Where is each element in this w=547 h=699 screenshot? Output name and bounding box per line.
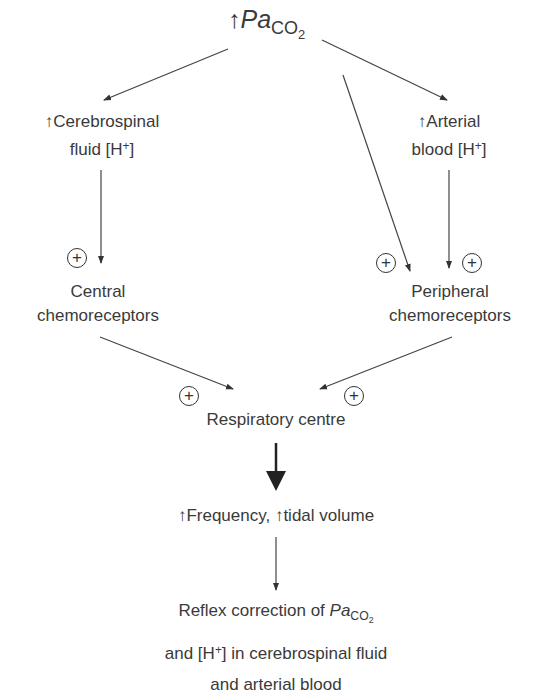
co2-subscript: CO2 — [350, 609, 373, 623]
csf-line2-prefix: fluid [H — [70, 140, 123, 159]
reflex-line1: Reflex correction of PaCO2 — [126, 596, 426, 635]
co-text: CO — [350, 609, 368, 623]
arterial-line2: blood [H+] — [393, 134, 505, 162]
central-line2: chemoreceptors — [23, 304, 173, 328]
co-text: CO — [271, 18, 298, 38]
peripheral-line1: Peripheral — [375, 280, 525, 304]
pa-label: Pa — [241, 5, 272, 33]
reflex-line2-suffix: ] in cerebrospinal fluid — [222, 645, 387, 664]
plus-superscript: + — [475, 139, 482, 153]
stimulatory-plus-icon: + — [67, 248, 87, 268]
reflex-line2-prefix: and [H — [165, 645, 215, 664]
plus-superscript: + — [123, 139, 130, 153]
stimulatory-plus-icon: + — [344, 386, 364, 406]
arrow-central-to-respiratory — [100, 337, 233, 389]
frequency-tidal-volume-node: ↑Frequency, ↑tidal volume — [146, 504, 406, 528]
two-text: 2 — [369, 615, 374, 625]
bold-arrowhead — [266, 471, 286, 491]
reflex-line3: and arterial blood — [126, 670, 426, 699]
arrow-peripheral-to-respiratory — [320, 337, 452, 389]
peripheral-chemoreceptors-node: Peripheral chemoreceptors — [375, 280, 525, 328]
csf-line2-suffix: ] — [130, 140, 135, 159]
central-chemoreceptors-node: Central chemoreceptors — [23, 280, 173, 328]
stimulatory-plus-icon: + — [462, 253, 482, 273]
reflex-correction-node: Reflex correction of PaCO2 and [H+] in c… — [126, 596, 426, 699]
csf-line2: fluid [H+] — [28, 134, 176, 162]
paco2-increase-node: ↑PaCO2 — [228, 4, 305, 50]
stimulatory-plus-icon: + — [376, 253, 396, 273]
reflex-line1-prefix: Reflex correction of — [178, 601, 329, 620]
up-arrow-icon: ↑ — [228, 5, 241, 33]
arrows-layer — [0, 0, 547, 699]
arrow-paco2-to-arterial — [322, 40, 447, 100]
arrow-paco2-to-peripheral — [343, 75, 410, 271]
reflex-line2: and [H+] in cerebrospinal fluid — [126, 635, 426, 669]
arterial-line2-prefix: blood [H — [411, 140, 474, 159]
peripheral-line2: chemoreceptors — [375, 304, 525, 328]
csf-line1: ↑Cerebrospinal — [28, 110, 176, 134]
plus-superscript: + — [215, 643, 222, 657]
co2-subscript: CO2 — [271, 18, 305, 38]
arterial-hplus-node: ↑Arterial blood [H+] — [393, 110, 505, 162]
frequency-label: ↑Frequency, ↑tidal volume — [146, 504, 406, 528]
two-text: 2 — [298, 27, 305, 42]
csf-hplus-node: ↑Cerebrospinal fluid [H+] — [28, 110, 176, 162]
arterial-line2-suffix: ] — [482, 140, 487, 159]
stimulatory-plus-icon: + — [179, 386, 199, 406]
arterial-line1: ↑Arterial — [393, 110, 505, 134]
respiratory-centre-label: Respiratory centre — [176, 408, 376, 432]
arrow-paco2-to-csf — [104, 49, 228, 100]
respiratory-centre-node: Respiratory centre — [176, 408, 376, 432]
central-line1: Central — [23, 280, 173, 304]
pa-label: Pa — [330, 601, 351, 620]
